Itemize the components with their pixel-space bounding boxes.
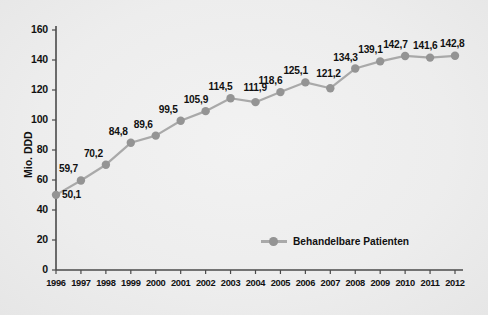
data-point-value-label: 84,8	[109, 126, 128, 137]
data-point-value-label: 114,5	[209, 81, 233, 92]
chart-legend: Behandelbare Patienten	[261, 236, 409, 247]
y-axis-tick-label: 120	[14, 83, 48, 95]
data-point-marker	[77, 176, 85, 184]
x-axis-tick-label: 2012	[440, 278, 470, 288]
data-point-marker	[102, 161, 110, 169]
data-point-marker	[226, 94, 234, 102]
data-point-marker	[401, 52, 409, 60]
data-point-marker	[176, 117, 184, 125]
data-point-marker	[201, 107, 209, 115]
y-axis-tick-label: 100	[14, 113, 48, 125]
data-point-marker	[301, 78, 309, 86]
data-point-value-label: 125,1	[283, 65, 308, 76]
data-point-value-label: 141,6	[413, 40, 438, 51]
data-point-marker	[276, 88, 284, 96]
y-axis-title: Mio. DDD	[22, 131, 34, 178]
data-point-marker	[52, 191, 60, 199]
data-point-value-label: 121,2	[316, 68, 341, 79]
data-point-value-label: 118,6	[258, 75, 282, 86]
data-point-value-label: 142,8	[440, 38, 465, 49]
y-axis-tick-label: 20	[14, 233, 48, 245]
data-point-marker	[376, 57, 384, 65]
legend-marker-icon	[269, 237, 278, 246]
legend-item-label: Behandelbare Patienten	[293, 236, 409, 247]
y-axis-tick-label: 160	[14, 23, 48, 35]
data-point-marker	[152, 131, 160, 139]
data-point-value-label: 99,5	[159, 104, 178, 115]
y-axis-tick-label: 0	[14, 263, 48, 275]
data-point-value-label: 59,7	[59, 163, 78, 174]
data-point-marker	[326, 84, 334, 92]
data-point-marker	[426, 53, 434, 61]
data-point-marker	[251, 98, 259, 106]
data-point-value-label: 50,1	[62, 189, 81, 200]
y-axis-tick-label: 140	[14, 53, 48, 65]
data-point-value-label: 89,6	[134, 119, 153, 130]
data-point-value-label: 105,9	[184, 94, 209, 105]
legend-line-swatch	[261, 240, 287, 242]
data-point-value-label: 139,1	[358, 44, 383, 55]
data-point-value-label: 142,7	[383, 39, 408, 50]
data-point-marker	[351, 64, 359, 72]
data-point-value-label: 134,3	[333, 52, 358, 63]
line-chart: 020406080100120140160 199619971998199920…	[0, 0, 488, 315]
data-point-value-label: 70,2	[84, 148, 103, 159]
data-point-marker	[451, 52, 459, 60]
y-axis-tick-label: 40	[14, 203, 48, 215]
data-point-marker	[127, 139, 135, 147]
